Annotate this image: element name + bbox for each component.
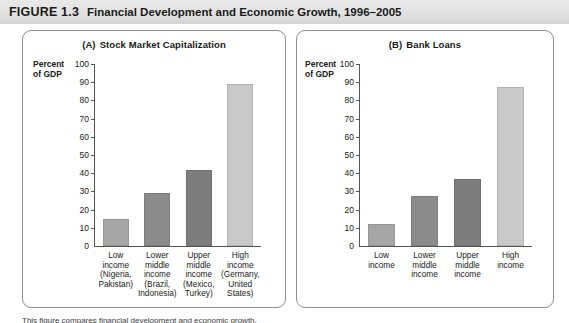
y-axis-tick: [91, 64, 95, 65]
panel-a-y-axis-label: Percentof GDP: [33, 59, 64, 79]
y-axis-tick-label: 40: [345, 169, 354, 178]
y-axis-tick: [356, 173, 360, 174]
y-axis-tick-label: 60: [345, 133, 354, 142]
y-axis-tick: [356, 228, 360, 229]
y-axis-tick: [356, 137, 360, 138]
y-axis-tick: [356, 82, 360, 83]
y-axis-tick: [91, 228, 95, 229]
y-axis-tick-label: 90: [345, 78, 354, 87]
y-axis-tick-label: 20: [345, 205, 354, 214]
y-axis-tick-label: 50: [345, 151, 354, 160]
bar: [144, 193, 170, 246]
figure-header: FIGURE 1.3 Financial Development and Eco…: [0, 0, 569, 24]
y-axis-tick: [91, 100, 95, 101]
y-axis-tick: [356, 155, 360, 156]
y-axis-tick-label: 50: [80, 151, 89, 160]
y-axis-tick-label: 80: [80, 96, 89, 105]
y-axis-tick-label: 100: [75, 60, 89, 69]
y-axis-tick: [91, 173, 95, 174]
y-axis-tick: [91, 82, 95, 83]
panel-a-letter: (A): [82, 39, 96, 50]
y-axis-tick-label: 0: [84, 242, 89, 251]
bar: [368, 224, 395, 246]
bar: [454, 179, 481, 246]
y-axis-tick-label: 20: [80, 205, 89, 214]
figure-title: Financial Development and Economic Growt…: [87, 6, 401, 18]
bar: [497, 87, 524, 246]
y-axis-tick-label: 100: [340, 60, 354, 69]
y-axis-tick-label: 10: [345, 224, 354, 233]
y-axis-tick: [356, 119, 360, 120]
panel-a-plot-area: 0102030405060708090100Low income (Nigeri…: [94, 64, 261, 247]
panel-a-title: (A)Stock Market Capitalization: [23, 39, 285, 50]
panel-b-title: (B)Bank Loans: [297, 39, 553, 50]
x-axis-category-label: Upper middle income: [447, 251, 489, 280]
figure-number: FIGURE 1.3: [9, 5, 79, 19]
y-axis-tick-label: 80: [345, 96, 354, 105]
y-axis-tick: [91, 155, 95, 156]
x-axis-category-label: Low income (Nigeria, Pakistan): [96, 251, 136, 289]
y-axis-tick-label: 60: [80, 133, 89, 142]
bar: [103, 219, 129, 246]
bar: [411, 196, 438, 246]
y-axis-tick-label: 40: [80, 169, 89, 178]
y-axis-tick-label: 70: [80, 114, 89, 123]
y-axis-tick-label: 70: [345, 114, 354, 123]
y-axis-tick: [91, 137, 95, 138]
panel-b-letter: (B): [389, 39, 403, 50]
x-axis-category-label: High income: [490, 251, 532, 270]
x-axis-category-label: Upper middle income (Mexico, Turkey): [179, 251, 219, 299]
bar: [227, 84, 253, 246]
panel-a-title-text: Stock Market Capitalization: [100, 39, 226, 50]
y-axis-tick-label: 30: [80, 187, 89, 196]
x-axis-category-label: High income (Germany, United States): [220, 251, 260, 299]
panel-bank-loans: (B)Bank Loans Percentof GDP 010203040506…: [296, 30, 554, 308]
y-axis-tick-label: 0: [349, 242, 354, 251]
x-axis-category-label: Lower middle income: [404, 251, 446, 280]
y-axis-tick: [91, 191, 95, 192]
figure-panels: (A)Stock Market Capitalization Percentof…: [0, 24, 569, 309]
x-axis-category-label: Lower middle income (Brazil, Indonesia): [137, 251, 177, 299]
bar: [186, 170, 212, 246]
y-axis-tick: [91, 210, 95, 211]
panel-b-title-text: Bank Loans: [406, 39, 461, 50]
y-axis-tick-label: 10: [80, 224, 89, 233]
y-axis-tick-label: 90: [80, 78, 89, 87]
panel-b-y-axis-label: Percentof GDP: [305, 59, 336, 79]
y-axis-tick: [91, 119, 95, 120]
y-axis-tick: [356, 64, 360, 65]
x-axis-category-label: Low income: [361, 251, 403, 270]
y-axis-tick: [356, 191, 360, 192]
y-axis-tick: [356, 100, 360, 101]
y-axis-tick-label: 30: [345, 187, 354, 196]
panel-b-plot-area: 0102030405060708090100Low incomeLower mi…: [359, 64, 532, 247]
figure-caption: This figure compares financial developme…: [22, 316, 542, 323]
panel-stock-market-capitalization: (A)Stock Market Capitalization Percentof…: [22, 30, 286, 308]
y-axis-tick: [356, 210, 360, 211]
